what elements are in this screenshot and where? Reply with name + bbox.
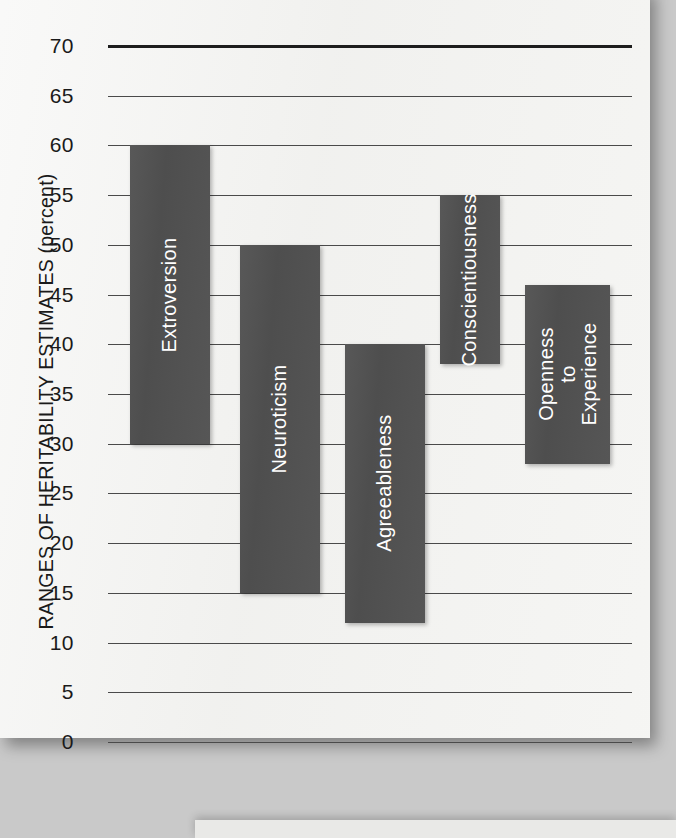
bar-label: Neuroticism <box>269 364 291 473</box>
chart-screenshot: 7065605550454035302520151050 RANGES OF H… <box>0 0 676 838</box>
gridline-65 <box>108 96 632 97</box>
bar-agreeableness: Agreeableness <box>345 344 425 622</box>
heritability-range-bar-chart: 7065605550454035302520151050 RANGES OF H… <box>0 0 676 838</box>
bar-label: Conscientiousness <box>459 193 481 366</box>
y-tick-label-65: 65 <box>18 85 74 106</box>
bar-label: Extroversion <box>159 237 181 352</box>
y-tick-label-5: 5 <box>18 681 74 702</box>
gridline-5 <box>108 692 632 693</box>
bar-openness-to-experience: Openness to Experience <box>525 285 610 464</box>
gridline-70 <box>108 45 632 48</box>
bar-label: Agreeableness <box>374 415 396 552</box>
bar-conscientiousness: Conscientiousness <box>440 195 500 364</box>
y-tick-label-0: 0 <box>18 731 74 752</box>
page-edge-below <box>195 820 676 838</box>
y-tick-label-70: 70 <box>18 35 74 56</box>
y-axis-title: RANGES OF HERITABILITY ESTIMATES (percen… <box>35 142 58 662</box>
bar-neuroticism: Neuroticism <box>240 245 320 593</box>
bar-extroversion: Extroversion <box>130 145 210 443</box>
gridline-10 <box>108 643 632 644</box>
gridline-0 <box>108 742 632 743</box>
bar-label: Openness to Experience <box>535 323 600 426</box>
